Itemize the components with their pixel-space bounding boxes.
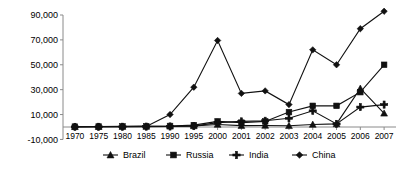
plus-marker-icon <box>233 151 240 158</box>
square-marker-icon <box>171 152 177 158</box>
legend-item-brazil[interactable]: Brazil <box>103 150 146 160</box>
diamond-marker-icon <box>262 88 268 94</box>
legend-label: India <box>249 150 269 160</box>
y-axis: -10,00010,00030,00050,00070,00090,000 <box>27 10 63 144</box>
diamond-marker-icon <box>238 90 244 96</box>
chart-legend: BrazilRussiaIndiaChina <box>103 150 336 160</box>
square-marker-icon <box>381 62 387 68</box>
square-marker-icon <box>334 103 340 109</box>
diamond-marker-icon <box>310 47 316 53</box>
legend-label: China <box>312 150 336 160</box>
y-axis-tick-label: 90,000 <box>30 10 58 20</box>
plus-marker-icon <box>357 103 364 110</box>
y-axis-tick-label: -10,000 <box>27 135 58 145</box>
legend-item-russia[interactable]: Russia <box>166 150 214 160</box>
diamond-marker-icon <box>296 152 303 159</box>
series-china <box>72 8 388 130</box>
x-axis-tick-label: 2000 <box>208 131 227 141</box>
line-chart: -10,00010,00030,00050,00070,00090,000 19… <box>0 0 402 172</box>
series-line <box>75 11 384 126</box>
x-axis-tick-label: 1970 <box>65 131 84 141</box>
x-axis-tick-label: 1995 <box>184 131 203 141</box>
x-axis-tick-label: 2006 <box>351 131 370 141</box>
x-axis-tick-label: 1980 <box>113 131 132 141</box>
diamond-marker-icon <box>286 101 292 107</box>
legend-item-india[interactable]: India <box>229 150 269 160</box>
diamond-marker-icon <box>214 37 220 43</box>
legend-item-china[interactable]: China <box>292 150 336 160</box>
x-axis-tick-label: 1990 <box>161 131 180 141</box>
x-axis-tick-label: 1985 <box>137 131 156 141</box>
series-line <box>75 65 384 127</box>
legend-label: Russia <box>186 150 214 160</box>
x-axis-tick-label: 2003 <box>280 131 299 141</box>
square-marker-icon <box>286 109 292 115</box>
x-axis-tick-label: 2002 <box>256 131 275 141</box>
y-axis-tick-label: 30,000 <box>30 85 58 95</box>
plus-marker-icon <box>381 101 388 108</box>
chart-canvas: -10,00010,00030,00050,00070,00090,000 19… <box>0 0 402 172</box>
y-axis-tick-label: 10,000 <box>30 110 58 120</box>
x-axis: 1970197519801985199019952000200120022003… <box>63 127 396 141</box>
square-marker-icon <box>358 89 364 95</box>
x-axis-tick-label: 2007 <box>375 131 394 141</box>
series-india <box>71 101 387 130</box>
x-axis-tick-label: 2001 <box>232 131 251 141</box>
x-axis-tick-label: 1975 <box>89 131 108 141</box>
legend-label: Brazil <box>123 150 146 160</box>
y-axis-tick-label: 70,000 <box>30 35 58 45</box>
plus-marker-icon <box>285 115 292 122</box>
series-layer <box>71 8 387 130</box>
x-axis-tick-label: 2005 <box>327 131 346 141</box>
x-axis-tick-label: 2004 <box>303 131 322 141</box>
diamond-marker-icon <box>333 62 339 68</box>
y-axis-tick-label: 50,000 <box>30 60 58 70</box>
